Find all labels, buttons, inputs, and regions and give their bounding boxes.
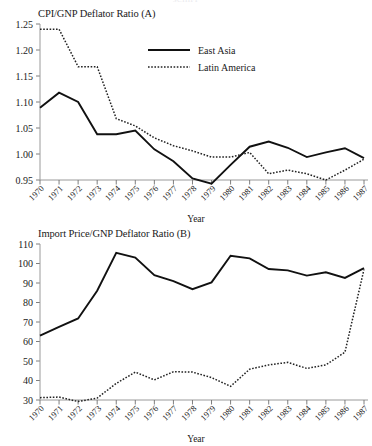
- panel-a-plot: 0.951.001.051.101.151.201.25197019711972…: [0, 8, 372, 213]
- panel-b-x-tick-label: 1975: [122, 403, 141, 422]
- panel-b-y-tick-label: 60: [23, 336, 33, 347]
- panel-a-x-tick-label: 1975: [122, 183, 141, 202]
- panel-a-x-tick-label: 1980: [217, 183, 236, 202]
- panel-a-x-tick-label: 1970: [27, 183, 46, 202]
- panel-b-x-tick-label: 1970: [27, 403, 46, 422]
- panel-b-series-east-asia: [40, 253, 364, 336]
- panel-b-y-tick-label: 110: [18, 239, 33, 250]
- panel-b-y-tick-label: 40: [23, 375, 33, 386]
- panel-b-y-tick-label: 30: [23, 395, 33, 406]
- panel-b-x-tick-label: 1986: [332, 403, 352, 423]
- panel-b-x-tick-label: 1973: [84, 403, 103, 422]
- chart-panel-a: CPI/GNP Deflator Ratio (A) 0.951.001.051…: [0, 8, 372, 226]
- panel-a-x-tick-label: 1982: [255, 183, 274, 202]
- panel-a-y-tick-label: 1.25: [16, 19, 34, 30]
- panel-b-x-tick-label: 1978: [179, 403, 198, 422]
- panel-b-x-tick-label: 1984: [294, 403, 314, 423]
- panel-a-y-tick-label: 1.05: [16, 123, 34, 134]
- panel-a-y-tick-label: 1.00: [16, 149, 34, 160]
- panel-a-y-tick-label: 1.10: [16, 97, 34, 108]
- panel-b-x-tick-label: 1979: [198, 403, 217, 422]
- panel-b-x-tick-label: 1976: [141, 403, 161, 423]
- panel-b-x-tick-label: 1972: [65, 403, 84, 422]
- panel-b-x-tick-label: 1971: [46, 403, 65, 422]
- panel-a-y-tick-label: 1.15: [16, 71, 34, 82]
- panel-a-x-tick-label: 1977: [160, 183, 180, 203]
- panel-a-x-tick-label: 1983: [274, 183, 293, 202]
- panel-a-legend-label-east-asia: East Asia: [198, 45, 236, 56]
- panel-b-series-latin-america: [40, 269, 364, 401]
- panel-a-y-tick-label: 0.95: [16, 175, 34, 186]
- panel-b-y-tick-label: 90: [23, 278, 33, 289]
- panel-b-y-tick-label: 100: [18, 258, 33, 269]
- panel-a-x-tick-label: 1972: [65, 183, 84, 202]
- panel-b-x-tick-label: 1974: [103, 403, 123, 423]
- panel-a-y-tick-label: 1.20: [16, 45, 34, 56]
- panel-b-y-tick-label: 50: [23, 356, 33, 367]
- panel-b-y-tick-label: 80: [23, 297, 33, 308]
- panel-b-y-tick-label: 70: [23, 317, 33, 328]
- panel-b-x-tick-label: 1977: [160, 403, 180, 423]
- panel-a-x-tick-label: 1974: [103, 183, 123, 203]
- panel-b-plot: 3040506070809010011019701971197219731974…: [0, 228, 372, 433]
- panel-b-x-tick-label: 1987: [351, 403, 371, 423]
- panel-a-x-tick-label: 1973: [84, 183, 103, 202]
- panel-b-x-axis-label: Year: [10, 434, 372, 444]
- panel-a-x-axis-label: Year: [10, 214, 372, 224]
- panel-a-x-tick-label: 1981: [236, 183, 255, 202]
- panel-a-x-tick-label: 1971: [46, 183, 65, 202]
- panel-b-x-tick-label: 1981: [236, 403, 255, 422]
- figure-page: SCHIFF CPI/GNP Deflator Ratio (A) 0.951.…: [0, 0, 372, 446]
- cut-off-page-header: SCHIFF: [0, 0, 372, 2]
- panel-a-x-tick-label: 1985: [313, 183, 332, 202]
- chart-panel-b: Import Price/GNP Deflator Ratio (B) 3040…: [0, 228, 372, 446]
- panel-a-x-tick-label: 1976: [141, 183, 161, 203]
- panel-a-legend-label-latin-america: Latin America: [198, 62, 256, 73]
- panel-a-x-tick-label: 1979: [198, 183, 217, 202]
- panel-b-x-tick-label: 1980: [217, 403, 236, 422]
- panel-b-x-tick-label: 1982: [255, 403, 274, 422]
- panel-b-x-tick-label: 1983: [274, 403, 293, 422]
- panel-a-x-tick-label: 1984: [294, 183, 314, 203]
- panel-a-x-tick-label: 1987: [351, 183, 371, 203]
- panel-b-x-tick-label: 1985: [313, 403, 332, 422]
- panel-a-x-tick-label: 1978: [179, 183, 198, 202]
- panel-a-x-tick-label: 1986: [332, 183, 352, 203]
- panel-a-series-east-asia: [40, 93, 364, 184]
